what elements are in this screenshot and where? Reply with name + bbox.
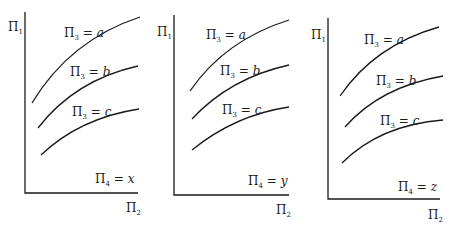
panel-1-curve-a-label: Π3 = a — [64, 26, 104, 42]
panel-1: Π1 Π2 Π3 = a Π3 = b Π3 = c Π4 = x — [8, 12, 141, 217]
panel-3-curve-c-label: Π3 = c — [380, 114, 420, 130]
panel-2-curve-c-label: Π3 = c — [222, 103, 262, 119]
panel-3-curve-b-label: Π3 = b — [376, 74, 416, 90]
panel-3-condition: Π4 = z — [398, 180, 438, 196]
panel-2-condition: Π4 = y — [248, 174, 288, 190]
panel-2: Π1 Π2 Π3 = a Π3 = b Π3 = c Π4 = y — [157, 15, 291, 219]
panel-2-x-label: Π2 — [276, 203, 291, 219]
panel-1-curve-b-label: Π3 = b — [70, 65, 110, 81]
panel-3-curve-a-label: Π3 = a — [364, 33, 404, 49]
panel-2-curve-b-label: Π3 = b — [220, 64, 260, 80]
panel-3-y-label: Π1 — [311, 28, 326, 44]
panel-1-condition: Π4 = x — [95, 172, 135, 188]
pi-groups-diagram: Π1 Π2 Π3 = a Π3 = b Π3 = c Π4 = x Π1 Π2 … — [0, 0, 450, 228]
panel-1-curve-c-label: Π3 = c — [72, 105, 112, 121]
panel-1-x-label: Π2 — [126, 201, 141, 217]
panel-1-y-label: Π1 — [8, 20, 23, 36]
panel-2-y-label: Π1 — [157, 25, 172, 41]
panel-3: Π1 Π2 Π3 = a Π3 = b Π3 = c Π4 = z — [311, 18, 443, 224]
panel-2-curve-a-label: Π3 = a — [206, 28, 246, 44]
panel-3-x-label: Π2 — [428, 208, 443, 224]
